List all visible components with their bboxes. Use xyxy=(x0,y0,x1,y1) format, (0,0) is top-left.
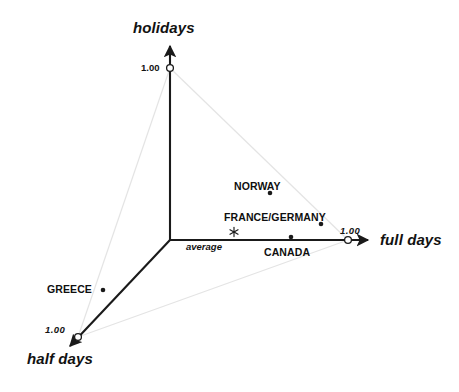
tick-marker-half-days xyxy=(75,334,82,341)
point-label-norway: NORWAY xyxy=(234,181,281,192)
plot-canvas xyxy=(0,0,459,392)
point-label-france-germany: FRANCE/GERMANY xyxy=(224,212,326,223)
tick-label-half-days: 1.00 xyxy=(45,325,65,335)
tick-marker-full-days xyxy=(345,237,352,244)
unit-triangle xyxy=(78,68,348,337)
marker-greece xyxy=(101,288,106,293)
axis-label-full-days: full days xyxy=(380,232,442,247)
point-label-greece: GREECE xyxy=(47,284,92,295)
axis-label-holidays: holidays xyxy=(133,20,195,35)
ternary-scatter-plot: holidays full days half days 1.00 1.00 1… xyxy=(0,0,459,392)
point-label-canada: CANADA xyxy=(264,247,310,258)
tick-marker-holidays xyxy=(167,65,174,72)
point-label-average: average xyxy=(186,242,222,252)
axis-label-half-days: half days xyxy=(27,351,93,366)
marker-canada xyxy=(289,235,294,240)
tick-label-holidays: 1.00 xyxy=(141,63,160,73)
marker-average-star xyxy=(230,227,238,236)
tick-label-full-days: 1.00 xyxy=(340,226,360,236)
axis-lines xyxy=(70,46,368,346)
